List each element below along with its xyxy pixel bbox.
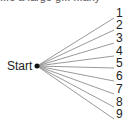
branch-line — [37, 43, 114, 66]
branch-line — [37, 66, 114, 94]
branch-label: 6 — [116, 69, 123, 83]
branch-label: 3 — [116, 31, 123, 45]
start-node — [35, 64, 40, 69]
branch-line — [37, 18, 114, 66]
branch-label: 2 — [116, 18, 123, 32]
branch-label: 9 — [116, 107, 123, 121]
branch-label: 5 — [116, 56, 123, 70]
branch-line — [37, 66, 114, 107]
start-label: Start — [7, 59, 33, 73]
branch-line — [37, 66, 114, 68]
tree-diagram: Start 123456789 — [0, 0, 128, 130]
branch-label: 7 — [116, 82, 123, 96]
